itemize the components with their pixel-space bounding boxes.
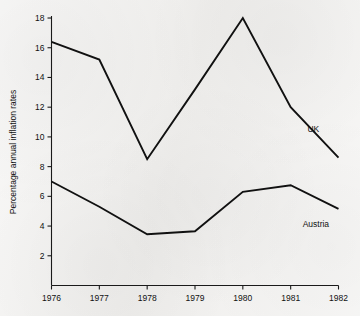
y-tick-label: 8 <box>40 162 45 172</box>
series-lines-group <box>52 18 339 234</box>
x-tick-label: 1978 <box>138 293 157 303</box>
series-line-austria <box>52 181 339 234</box>
y-tick-label: 2 <box>40 251 45 261</box>
y-tick-label: 4 <box>40 221 45 231</box>
series-line-uk <box>52 18 339 159</box>
series-labels-group: UKAustria <box>303 124 330 228</box>
x-tick-label: 1981 <box>281 293 300 303</box>
x-tick-label: 1980 <box>233 293 252 303</box>
y-axis-tick-labels: 24681012141618 <box>35 13 45 261</box>
inflation-line-chart: Percentage annual inflation rates 246810… <box>0 0 360 316</box>
y-tick-label: 10 <box>35 132 45 142</box>
y-tick-label: 14 <box>35 72 45 82</box>
y-tick-label: 16 <box>35 43 45 53</box>
y-axis-title: Percentage annual inflation rates <box>8 90 18 214</box>
y-tick-label: 18 <box>35 13 45 23</box>
y-tick-label: 6 <box>40 191 45 201</box>
x-tick-label: 1982 <box>329 293 348 303</box>
y-axis-ticks <box>48 18 52 256</box>
series-label-uk: UK <box>307 124 319 134</box>
x-tick-label: 1979 <box>186 293 205 303</box>
x-tick-label: 1976 <box>42 293 61 303</box>
chart-page: Percentage annual inflation rates 246810… <box>0 0 360 316</box>
y-tick-label: 12 <box>35 102 45 112</box>
series-label-austria: Austria <box>303 219 330 229</box>
x-axis-tick-labels: 1976197719781979198019811982 <box>42 293 348 303</box>
x-axis-ticks <box>52 286 339 290</box>
x-tick-label: 1977 <box>90 293 109 303</box>
